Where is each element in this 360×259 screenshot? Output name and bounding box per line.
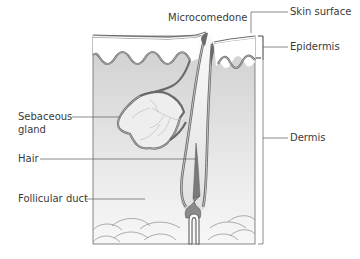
epidermis-marker (256, 57, 261, 59)
label-epidermis: Epidermis (290, 40, 340, 53)
skin-diagram (0, 0, 360, 259)
label-skin-surface: Skin surface (290, 5, 351, 18)
label-microcomedone: Microcomedone (168, 11, 247, 24)
dermis-bracket (258, 36, 263, 244)
skin-surface-leader (251, 12, 288, 33)
label-dermis: Dermis (290, 131, 326, 144)
skin-block (93, 36, 255, 244)
label-sebaceous-gland-line1: Sebaceous (18, 110, 72, 123)
label-sebaceous-gland-line2: gland (18, 123, 46, 136)
label-follicular-duct: Follicular duct (18, 192, 88, 205)
label-hair: Hair (18, 152, 39, 165)
epidermis-bracket (258, 36, 263, 60)
